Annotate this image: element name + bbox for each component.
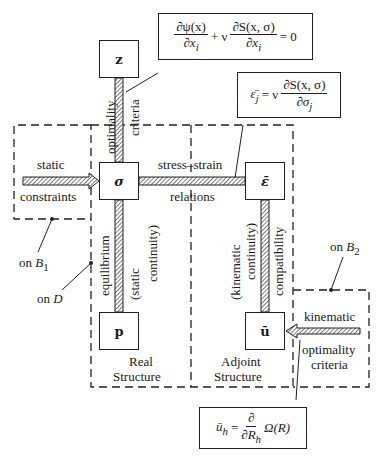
leader-on-D [62,263,91,290]
label-real-structure: Structure [113,370,161,383]
label-on-B2: on B2 [330,240,360,256]
bar-eps-u [261,200,269,312]
leader-on-B1 [38,219,52,252]
label-relations: relations [170,190,215,203]
node-z-label: z [115,52,122,67]
leader-on-B2 [331,257,343,290]
label-adjoint: Adjoint [221,355,261,368]
equation-optimality-criteria: ∂ψ(x) ∂xi + ν ∂S(x, σ) ∂xi = 0 [158,13,313,60]
label-on-B1: on B1 [19,256,49,272]
bar-sigma-eps [139,177,245,185]
node-sigma: σ [99,162,139,200]
label-constraints: constraints [20,190,76,203]
label-kin-optimality: optimality [302,343,355,356]
node-sigma-label: σ [114,174,124,189]
equation-kinematic-optimality: ūh = ∂ ∂Rh Ω(R) [199,407,307,449]
label-static-continuity-2: continuity) [146,225,159,282]
label-kin-criteria: criteria [311,358,348,371]
eq2-fraction: ∂S(x, σ) ∂σj [281,78,327,112]
node-z: z [99,40,139,78]
equation-stress-strain: ε̄j = ν ∂S(x, σ) ∂σj [237,72,341,118]
label-stress-strain: stress–strain [158,158,222,171]
node-u-bar: ū [245,312,285,350]
eq3-fraction: ∂ ∂Rh [241,411,261,445]
label-compatibility: compatibility [272,227,285,296]
node-p-label: p [114,324,123,339]
arrow-static-constraints [23,173,99,189]
leader-dots [50,217,333,292]
label-static: static [37,158,64,171]
arrow-kinematic-optimality [286,324,360,338]
node-eps-bar: ε̄ [245,162,285,200]
label-adjoint-structure: Structure [214,370,262,383]
label-kinematic-continuity-2: continuity) [244,223,257,280]
diagram-canvas [0,0,382,460]
label-criteria: criteria [128,99,141,136]
leader-eq2 [235,125,243,178]
node-p: p [99,312,139,350]
leader-eq3 [296,340,300,400]
label-static-continuity-1: (static [128,268,141,300]
label-equilibrium: equilibrium [98,235,111,296]
label-optimality: optimality [104,101,117,154]
eq1-term1: ∂ψ(x) ∂xi [174,20,208,54]
label-kinematic-continuity-1: (kinematic [229,244,242,300]
label-real: Real [129,355,153,368]
label-kinematic: kinematic [304,310,355,323]
node-eps-bar-label: ε̄ [261,174,269,189]
bar-sigma-p [115,200,123,312]
eq1-term2: ∂S(x, σ) ∂xi [230,20,276,54]
label-on-D: on D [37,292,63,305]
node-u-bar-label: ū [260,324,269,339]
